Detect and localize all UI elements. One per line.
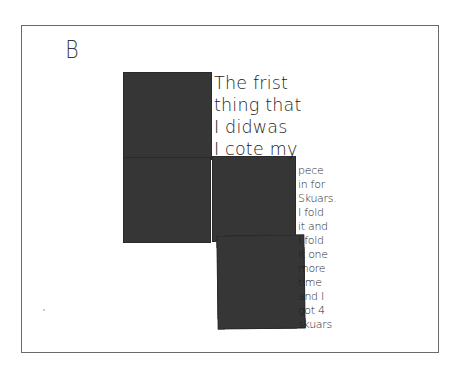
handwriting-top-block: The frist thing that I didwas I cote my xyxy=(214,72,302,160)
handwriting-line: thing that xyxy=(214,94,302,116)
handwriting-line: I didwas xyxy=(214,116,302,138)
handwriting-line: time xyxy=(298,276,336,290)
paper-square-middle-left xyxy=(123,157,211,243)
handwriting-line: in for xyxy=(298,178,336,192)
handwriting-side-block: pece in for Skuars. I fold it and I fold… xyxy=(298,164,336,332)
handwriting-line: skuars xyxy=(298,318,336,332)
handwriting-line: it and xyxy=(298,220,336,234)
handwriting-line: and I xyxy=(298,290,336,304)
handwriting-line: more xyxy=(298,262,336,276)
handwriting-line: pece xyxy=(298,164,336,178)
handwriting-line: The frist xyxy=(214,72,302,94)
handwriting-line: I cote my xyxy=(214,138,302,160)
worksheet-label: B xyxy=(65,36,78,64)
handwriting-line: I fold xyxy=(298,206,336,220)
handwriting-line: I fold xyxy=(298,234,336,248)
paper-square-top-left xyxy=(123,72,212,160)
handwriting-line: got 4 xyxy=(298,304,336,318)
paper-square-middle-right xyxy=(212,156,296,242)
paper-square-bottom-right xyxy=(216,234,305,329)
handwriting-line: Skuars. xyxy=(298,192,336,206)
scan-speck xyxy=(43,309,45,311)
handwriting-line: It one xyxy=(298,248,336,262)
